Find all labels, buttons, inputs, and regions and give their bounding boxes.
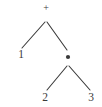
node-operand-3: 3 — [88, 91, 94, 103]
node-operand-1: 1 — [18, 48, 24, 60]
expression-tree-canvas: + 1 2 3 — [0, 0, 102, 107]
node-operand-2: 2 — [42, 91, 48, 103]
edge-multiply-to-operand-3 — [69, 66, 90, 90]
node-plus-operator: + — [43, 2, 49, 13]
edge-root-to-multiply — [47, 22, 67, 50]
edge-multiply-to-operand-2 — [47, 66, 67, 90]
edge-group — [22, 22, 90, 90]
multiply-operator-icon — [66, 55, 70, 59]
expression-tree-figure: + 1 2 3 — [0, 0, 102, 107]
edge-root-to-operand-1 — [22, 22, 45, 48]
node-group: + 1 2 3 — [18, 2, 94, 102]
